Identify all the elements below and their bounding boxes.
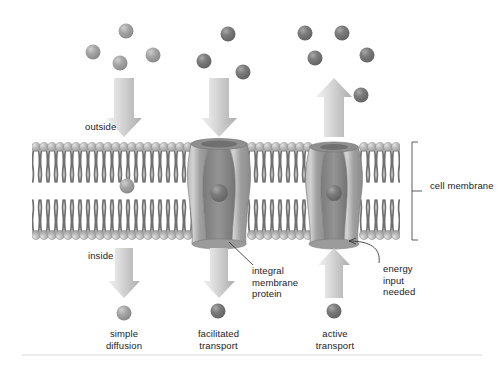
cell-membrane-bracket <box>412 142 422 240</box>
arrow-facilitated-inward-lower <box>203 248 235 298</box>
label-facilitated-transport: facilitated transport <box>182 328 255 351</box>
cell-membrane-transport-figure: outside inside cell membrane integral me… <box>0 0 504 370</box>
label-integral-membrane-protein: integral membrane protein <box>252 265 298 300</box>
label-outside: outside <box>85 121 116 133</box>
label-inside: inside <box>88 250 113 262</box>
particle-in-active-channel <box>326 185 342 201</box>
arrow-facilitated-inward <box>201 78 237 137</box>
particle-in-bilayer <box>120 179 135 194</box>
particles-inside <box>117 304 342 321</box>
label-simple-diffusion: simple diffusion <box>94 328 154 351</box>
label-active-transport: active transport <box>302 328 368 351</box>
arrow-active-outward-lower <box>318 248 350 298</box>
label-cell-membrane: cell membrane <box>430 180 494 192</box>
arrow-active-outward <box>316 78 352 137</box>
label-energy-input-needed: energy input needed <box>383 263 415 298</box>
particle-in-facilitated-channel <box>210 184 228 202</box>
diagram-canvas <box>0 0 504 370</box>
